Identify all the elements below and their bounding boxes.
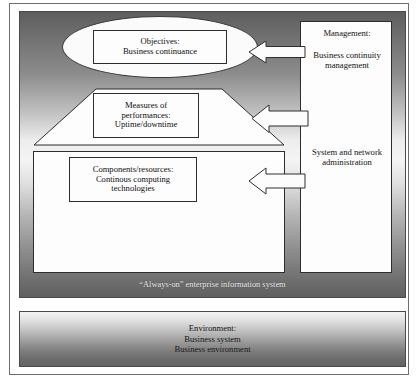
management-body: Business continuity management bbox=[301, 50, 393, 71]
arrow-management-to-measures-icon bbox=[251, 103, 309, 134]
environment-band: Environment: Business system Business en… bbox=[19, 311, 406, 367]
arrow-management-to-objectives-icon bbox=[248, 40, 306, 64]
objectives-line-2: Business continuance bbox=[123, 47, 197, 57]
measures-line-3: Uptime/downtime bbox=[115, 120, 178, 130]
environment-line-1: Environment: bbox=[189, 323, 236, 334]
environment-line-3: Business environment bbox=[174, 344, 250, 355]
measures-box: Measures of performances: Uptime/downtim… bbox=[93, 93, 199, 138]
components-line-3: technologies bbox=[111, 184, 154, 194]
system-caption: “Always-on” enterprise information syste… bbox=[24, 276, 401, 293]
management-title: Management: bbox=[301, 28, 393, 38]
diagram-canvas: Objectives: Business continuance Measure… bbox=[0, 0, 420, 379]
components-box: Components/resources: Continous computin… bbox=[69, 157, 197, 202]
system-caption-text: “Always-on” enterprise information syste… bbox=[139, 280, 285, 289]
arrow-sysnet-to-components-icon bbox=[248, 166, 306, 196]
objectives-box: Objectives: Business continuance bbox=[93, 30, 227, 64]
environment-line-2: Business system bbox=[184, 334, 241, 345]
management-panel: Management: Business continuity manageme… bbox=[300, 21, 392, 273]
system-network-admin-label: System and network administration bbox=[301, 147, 393, 168]
